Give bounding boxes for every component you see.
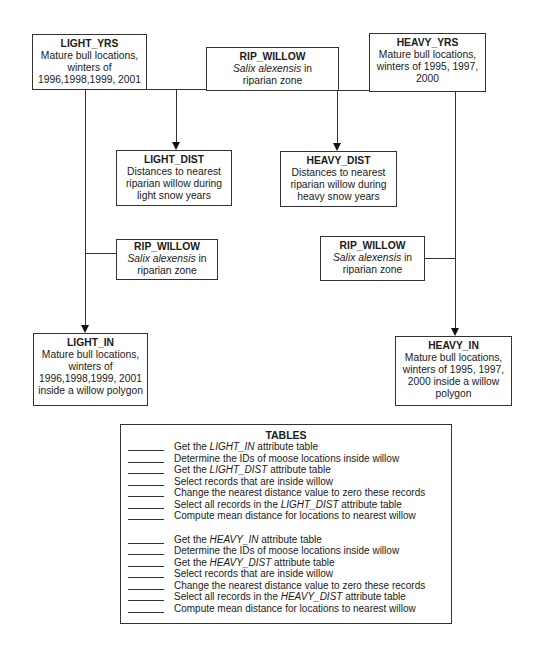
step-text-post: attribute table (342, 591, 405, 602)
order-blank-line[interactable] (128, 589, 164, 590)
step-text: Get the HEAVY_DIST attribute table (174, 557, 335, 569)
connector-heavy-yrs-to-heavy-in (455, 91, 456, 329)
order-blank-line[interactable] (128, 554, 164, 555)
step-text-post: attribute table (255, 441, 318, 452)
order-blank-line[interactable] (128, 543, 164, 544)
step-text-post: attribute table (339, 499, 402, 510)
species-suffix: in (301, 63, 312, 74)
node-desc-line: Mature bull locations, (396, 352, 511, 364)
node-title: HEAVY_DIST (281, 155, 396, 167)
node-desc-line: winters of (33, 62, 146, 74)
order-blank-line[interactable] (128, 462, 164, 463)
arrow-to-heavy-dist (333, 143, 341, 151)
connector-rip-willow-heavy-yrs (338, 90, 369, 91)
order-blank-line[interactable] (128, 508, 164, 509)
step-text: Select all records in the HEAVY_DIST att… (174, 591, 406, 603)
order-blank-line[interactable] (128, 577, 164, 578)
tables-title: TABLES (121, 429, 451, 441)
step-table-name: HEAVY_DIST (281, 591, 343, 602)
step-text-pre: Get the (174, 464, 210, 475)
step-row: Change the nearest distance value to zer… (121, 580, 451, 592)
step-text-pre: Change the nearest distance value to zer… (174, 580, 425, 591)
connector-to-heavy-dist (337, 91, 338, 143)
step-row: Change the nearest distance value to zer… (121, 487, 451, 499)
node-title: HEAVY_YRS (370, 37, 485, 49)
step-text-pre: Get the (174, 441, 210, 452)
step-text-pre: Select records that are inside willow (174, 568, 333, 579)
connector-light-yrs-to-light-in (85, 89, 86, 326)
step-row: Select all records in the LIGHT_DIST att… (121, 499, 451, 511)
node-rip-willow-right: RIP_WILLOW Salix alexensis in riparian z… (320, 236, 425, 281)
node-desc-line: Salix alexensis in (321, 252, 424, 264)
tables-panel: TABLES Get the LIGHT_IN attribute table … (120, 424, 452, 624)
step-text: Select records that are inside willow (174, 476, 333, 488)
step-text-pre: Get the (174, 534, 210, 545)
step-text: Determine the IDs of moose locations ins… (174, 545, 399, 557)
node-title: LIGHT_IN (34, 337, 147, 349)
connector-rip-willow-left (85, 253, 116, 254)
node-heavy-yrs: HEAVY_YRS Mature bull locations, winters… (369, 33, 486, 92)
node-light-in: LIGHT_IN Mature bull locations, winters … (33, 333, 148, 406)
step-row: Get the LIGHT_IN attribute table (121, 441, 451, 453)
order-blank-line[interactable] (128, 496, 164, 497)
node-desc-line: 2000 inside a willow (396, 376, 511, 388)
step-text: Change the nearest distance value to zer… (174, 580, 425, 592)
step-text-pre: Select all records in the (174, 591, 281, 602)
step-row: Select all records in the HEAVY_DIST att… (121, 591, 451, 603)
node-desc-line: 1996,1998,1999, 2001 (33, 74, 146, 86)
node-desc-line: winters of 1995, 1997, (396, 364, 511, 376)
step-row: Select records that are inside willow (121, 476, 451, 488)
step-text: Get the LIGHT_DIST attribute table (174, 464, 331, 476)
step-row: Compute mean distance for locations to n… (121, 603, 451, 615)
order-blank-line[interactable] (128, 612, 164, 613)
arrow-to-light-dist (172, 142, 180, 150)
step-text-pre: Get the (174, 557, 210, 568)
light-steps-list: Get the LIGHT_IN attribute table Determi… (121, 441, 451, 522)
step-row: Get the LIGHT_DIST attribute table (121, 464, 451, 476)
step-text: Select records that are inside willow (174, 568, 333, 580)
node-rip-willow-left: RIP_WILLOW Salix alexensis in riparian z… (116, 239, 218, 280)
node-desc-line: riparian zone (207, 75, 338, 87)
connector-rip-willow-right (424, 258, 455, 259)
node-desc-line: Distances to nearest (117, 166, 231, 178)
step-row: Get the HEAVY_DIST attribute table (121, 557, 451, 569)
step-text-post: attribute table (271, 557, 334, 568)
order-blank-line[interactable] (128, 485, 164, 486)
node-title: LIGHT_YRS (33, 38, 146, 50)
node-title: HEAVY_IN (396, 340, 511, 352)
step-text-pre: Select records that are inside willow (174, 476, 333, 487)
step-table-name: LIGHT_IN (210, 441, 255, 452)
node-desc-line: inside a willow polygon (34, 385, 147, 397)
order-blank-line[interactable] (128, 600, 164, 601)
order-blank-line[interactable] (128, 450, 164, 451)
step-text-post: attribute table (259, 534, 322, 545)
order-blank-line[interactable] (128, 566, 164, 567)
species-name: Salix alexensis (233, 63, 301, 74)
step-table-name: HEAVY_IN (210, 534, 259, 545)
node-heavy-in: HEAVY_IN Mature bull locations, winters … (395, 336, 512, 406)
arrow-to-heavy-in (451, 328, 459, 336)
step-table-name: HEAVY_DIST (210, 557, 272, 568)
step-row: Determine the IDs of moose locations ins… (121, 453, 451, 465)
step-text-post: attribute table (267, 464, 330, 475)
arrow-to-light-in (81, 325, 89, 333)
node-desc-line: Distances to nearest (281, 167, 396, 179)
node-title: RIP_WILLOW (207, 51, 338, 63)
step-text: Compute mean distance for locations to n… (174, 510, 416, 522)
species-suffix: in (196, 253, 207, 264)
species-name: Salix alexensis (333, 252, 401, 263)
step-text: Compute mean distance for locations to n… (174, 603, 416, 615)
step-text: Get the LIGHT_IN attribute table (174, 441, 318, 453)
node-desc-line: heavy snow years (281, 191, 396, 203)
order-blank-line[interactable] (128, 473, 164, 474)
step-row: Compute mean distance for locations to n… (121, 510, 451, 522)
node-title: RIP_WILLOW (321, 240, 424, 252)
node-desc-line: riparian willow during (281, 179, 396, 191)
step-table-name: LIGHT_DIST (210, 464, 268, 475)
node-desc-line: polygon (396, 388, 511, 400)
step-text-pre: Determine the IDs of moose locations ins… (174, 545, 399, 556)
order-blank-line[interactable] (128, 519, 164, 520)
step-text-pre: Determine the IDs of moose locations ins… (174, 453, 399, 464)
node-rip-willow-top: RIP_WILLOW Salix alexensis in riparian z… (206, 47, 339, 91)
node-desc-line: Mature bull locations, (33, 50, 146, 62)
